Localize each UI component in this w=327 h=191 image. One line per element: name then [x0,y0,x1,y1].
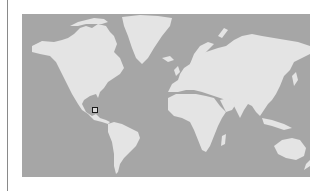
world-map[interactable] [22,14,310,177]
location-marker[interactable] [92,107,98,113]
left-border-rule [7,0,8,191]
world-map-svg [22,14,310,177]
